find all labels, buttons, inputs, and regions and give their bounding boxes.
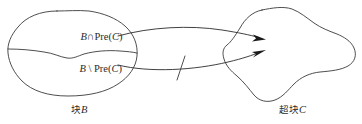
block-b-partition-line <box>8 49 137 58</box>
upper-arrow-head <box>252 35 266 42</box>
block-b-outline <box>8 11 137 96</box>
superblock-c-outline <box>223 7 355 101</box>
setminus-icon: \ <box>86 63 94 74</box>
upper-part-label: B∩Pre(C) <box>62 31 136 43</box>
lower-arrow-head <box>252 50 266 58</box>
diagram-canvas: B∩Pre(C) B \ Pre(C) 块B 超块C <box>0 0 362 124</box>
block-b-caption: 块B <box>71 104 88 115</box>
lower-part-label: B \ Pre(C) <box>61 63 135 75</box>
superblock-c-caption: 超块C <box>279 104 307 115</box>
lower-label-pre: Pre( <box>94 63 112 75</box>
upper-label-pre: Pre( <box>94 31 112 43</box>
intersection-icon: ∩ <box>87 31 95 42</box>
set-transition-diagram: B∩Pre(C) B \ Pre(C) 块B 超块C <box>0 0 362 124</box>
lower-transition-arrow <box>118 53 259 70</box>
arrow-negation-slash-icon <box>177 56 185 80</box>
upper-transition-arrow <box>118 27 259 37</box>
